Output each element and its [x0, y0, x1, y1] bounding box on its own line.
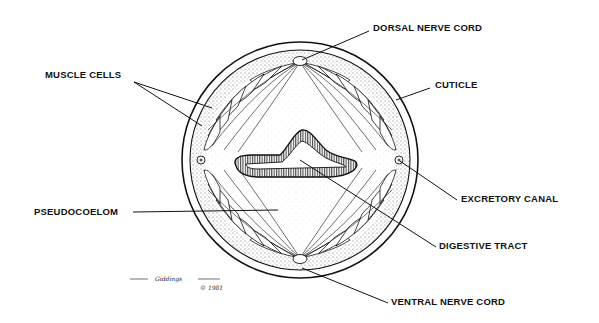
diagram-canvas: MUSCLE CELLS DORSAL NERVE CORD CUTICLE E… [0, 0, 599, 323]
label-muscle-cells: MUSCLE CELLS [45, 69, 121, 80]
label-pseudocoelom: PSEUDOCOELOM [34, 206, 118, 217]
excretory-canal-left [197, 156, 205, 164]
label-excretory-canal: EXCRETORY CANAL [461, 193, 558, 204]
leader-cuticle [396, 88, 430, 100]
dorsal-nerve-cord [293, 57, 307, 66]
leader-muscle-cells-b [134, 82, 202, 126]
label-ventral-nerve-cord: VENTRAL NERVE CORD [391, 296, 505, 307]
leader-muscle-cells-a [134, 82, 212, 108]
ventral-nerve-cord [293, 255, 307, 264]
label-cuticle: CUTICLE [435, 79, 478, 90]
label-digestive-tract: DIGESTIVE TRACT [439, 240, 528, 251]
artist-signature: Giddings [155, 275, 182, 282]
copyright-notice: © 1981 [200, 284, 223, 291]
cross-section-illustration [0, 0, 599, 323]
leader-ventral-nerve-cord [302, 268, 388, 303]
label-dorsal-nerve-cord: DORSAL NERVE CORD [373, 22, 482, 33]
